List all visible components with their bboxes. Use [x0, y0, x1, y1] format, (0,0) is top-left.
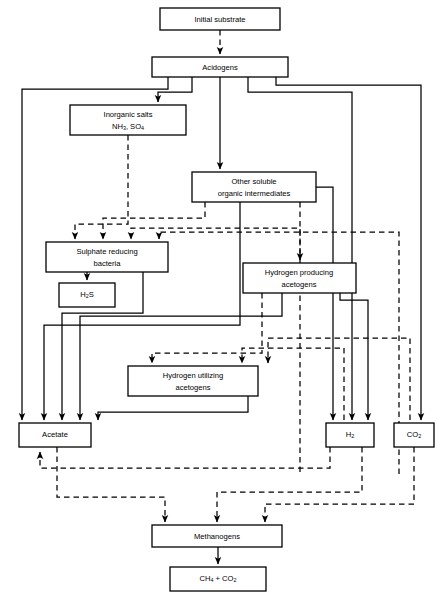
- acidogens-label: Acidogens: [202, 63, 238, 72]
- edge-h2-to-acetate-feedback: [40, 447, 330, 468]
- node-sulphate-reducing-bacteria[interactable]: Sulphate reducing bacteria: [46, 242, 168, 272]
- acetate-label: Acetate: [42, 430, 68, 439]
- node-hydrogen-producing-acetogens[interactable]: Hydrogen producing acetogens: [243, 263, 356, 293]
- other-soluble-line1: Other soluble: [231, 177, 276, 186]
- edge-acetate-to-methanogens: [57, 447, 165, 522]
- node-acidogens[interactable]: Acidogens: [152, 57, 288, 77]
- final-products-label: CH4 + CO2: [199, 574, 236, 584]
- hydrogen-producing-line1: Hydrogen producing: [265, 268, 333, 277]
- node-acetate[interactable]: Acetate: [19, 423, 91, 447]
- anaerobic-digestion-flowchart: Initial substrate Acidogens Inorganic sa…: [0, 0, 438, 599]
- edge-hydrogen-utilizing-to-acetate: [98, 396, 248, 420]
- node-final-products[interactable]: CH4 + CO2: [170, 567, 266, 591]
- edge-inorganic-to-sulphate: [75, 135, 128, 239]
- node-initial-substrate[interactable]: Initial substrate: [160, 8, 280, 30]
- node-h2[interactable]: H2: [326, 423, 374, 447]
- sulphate-line2: bacteria: [93, 259, 121, 268]
- hydrogen-utilizing-line2: acetogens: [175, 383, 210, 392]
- edge-co2-to-methanogens: [265, 447, 414, 522]
- node-inorganic-salts[interactable]: Inorganic salts NH3, SO4: [70, 105, 186, 135]
- sulphate-line1: Sulphate reducing: [76, 247, 137, 256]
- node-h2s[interactable]: H2S: [59, 283, 115, 307]
- edge-h2-to-methanogens: [217, 447, 362, 522]
- methanogens-label: Methanogens: [194, 532, 240, 541]
- hydrogen-producing-line2: acetogens: [281, 280, 316, 289]
- edge-other-soluble-to-sulphate: [103, 202, 205, 239]
- node-hydrogen-utilizing-acetogens[interactable]: Hydrogen utilizing acetogens: [128, 366, 258, 396]
- edge-co2-to-hydrogen-utilizing: [268, 338, 410, 420]
- edge-acidogens-left-trunk: [22, 77, 168, 236]
- node-co2[interactable]: CO2: [394, 423, 434, 447]
- edge-hydrogen-producing-to-acetate: [80, 293, 282, 420]
- node-methanogens[interactable]: Methanogens: [152, 525, 282, 547]
- edge-other-soluble-to-h2: [316, 187, 333, 420]
- hydrogen-utilizing-line1: Hydrogen utilizing: [163, 371, 223, 380]
- edge-hydrogen-producing-to-hydrogen-utilizing: [152, 293, 262, 363]
- node-other-soluble-organic-intermediates[interactable]: Other soluble organic intermediates: [192, 172, 316, 202]
- other-soluble-line2: organic intermediates: [218, 189, 291, 198]
- inorganic-salts-line1: Inorganic salts: [104, 110, 153, 119]
- inorganic-salts-formula: NH3, SO4: [112, 122, 144, 132]
- initial-substrate-label: Initial substrate: [194, 15, 245, 24]
